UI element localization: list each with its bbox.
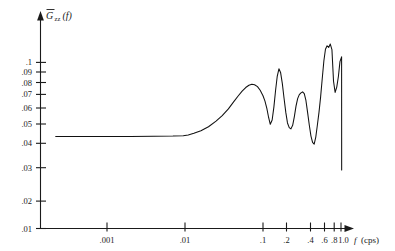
- data-series-group: [56, 44, 342, 170]
- chart-figure: .1 .09 .08 .07 .06 .05 .04 .03 .02 .01 G…: [0, 0, 395, 251]
- x-tick-label: .001: [100, 235, 115, 245]
- y-axis-title-symbol: G: [46, 10, 53, 21]
- y-tick-label: .09: [21, 67, 32, 77]
- x-tick-label: .01: [180, 235, 191, 245]
- y-axis-group: .1 .09 .08 .07 .06 .05 .04 .03 .02 .01 G…: [21, 10, 72, 234]
- x-tick-label: .1: [260, 235, 266, 245]
- x-tick-label: .8: [331, 235, 337, 245]
- y-tick-label: .01: [21, 224, 32, 234]
- y-axis-arrow-icon: [37, 11, 44, 21]
- y-axis-title: G zz (f): [46, 10, 73, 22]
- y-tick-label: .02: [21, 196, 32, 206]
- x-axis-group: .001 .01 .1 .2 .4 .6 .8 1.0 f (cps): [41, 223, 380, 246]
- x-axis-title-symbol: f: [354, 235, 358, 245]
- plot-canvas: .1 .09 .08 .07 .06 .05 .04 .03 .02 .01 G…: [0, 0, 395, 251]
- y-axis-title-subscript: zz: [55, 15, 61, 22]
- y-tick-label: .05: [21, 119, 32, 129]
- y-tick-label: .06: [21, 103, 32, 113]
- y-tick-label: .1: [26, 57, 32, 67]
- y-tick-label: .04: [21, 138, 32, 148]
- x-tick-label: .4: [307, 235, 314, 245]
- x-axis-title-unit: (cps): [361, 235, 379, 245]
- y-axis-title-argument: (f): [63, 10, 73, 22]
- x-axis-arrow-icon: [345, 225, 355, 232]
- x-tick-label: 1.0: [338, 235, 349, 245]
- y-tick-label: .07: [21, 89, 32, 99]
- y-tick-label: .03: [21, 163, 32, 173]
- x-tick-marks: [107, 223, 341, 232]
- y-tick-label: .08: [21, 78, 32, 88]
- x-tick-label: .6: [321, 235, 327, 245]
- spectral-density-curve: [56, 44, 342, 170]
- x-tick-label: .2: [283, 235, 289, 245]
